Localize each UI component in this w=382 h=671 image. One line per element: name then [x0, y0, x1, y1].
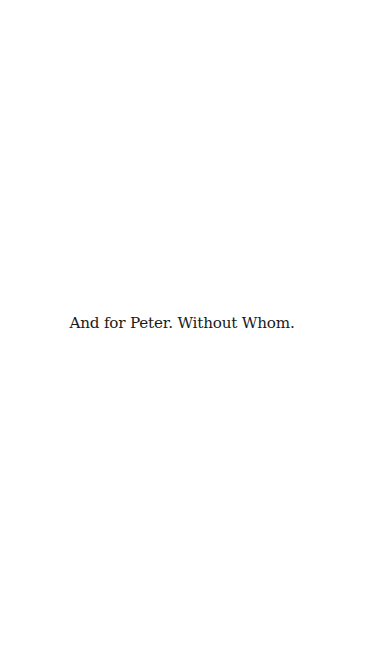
dedication-text: And for Peter. Without Whom. — [0, 313, 364, 333]
book-page: And for Peter. Without Whom. — [0, 0, 382, 671]
